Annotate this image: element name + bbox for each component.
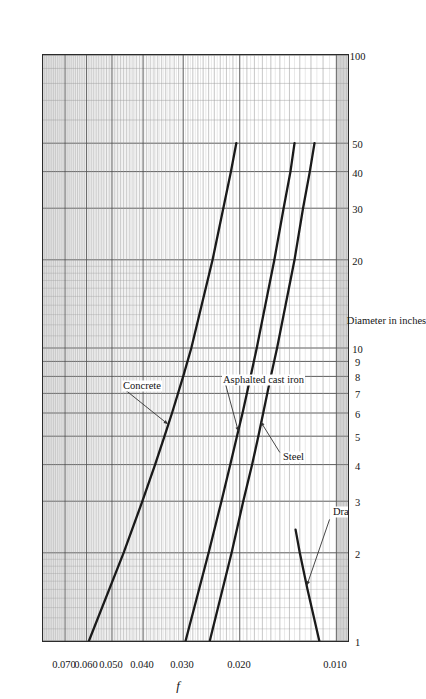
- x-tick-20: 20: [352, 255, 363, 266]
- concrete-label: Concrete: [122, 381, 162, 392]
- concrete-leader: [125, 390, 168, 424]
- x-tick-40: 40: [352, 167, 363, 178]
- x-tick-6: 6: [355, 409, 360, 420]
- x-tick-10: 10: [352, 344, 363, 355]
- x-tick-3: 3: [355, 497, 360, 508]
- x-tick-30: 30: [352, 204, 363, 215]
- y-tick-0.070: 0.070: [52, 659, 76, 670]
- drawn-tubing-leader-arrowhead: [307, 581, 310, 585]
- asphalted-cast-iron-leader: [225, 383, 238, 431]
- x-tick-2: 2: [355, 548, 360, 559]
- y-tick-0.060: 0.060: [74, 659, 98, 670]
- x-tick-5: 5: [355, 432, 360, 443]
- x-tick-9: 9: [355, 357, 360, 368]
- x-axis-title: Diameter in inches: [347, 315, 426, 326]
- y-tick-0.050: 0.050: [99, 659, 123, 670]
- annotation-leaders: [43, 55, 348, 641]
- x-tick-50: 50: [352, 139, 363, 150]
- steel-leader: [261, 422, 280, 453]
- drawn-tubing-leader: [307, 519, 330, 585]
- plot-area: Concrete Asphalted cast iron Steel Drawn…: [42, 54, 349, 642]
- drawn-tubing-label: Drawn tubing: [332, 507, 349, 518]
- steel-label: Steel: [282, 451, 305, 462]
- x-tick-7: 7: [355, 389, 360, 400]
- x-tick-8: 8: [355, 372, 360, 383]
- y-axis-title: f: [176, 678, 180, 694]
- y-tick-0.030: 0.030: [170, 659, 194, 670]
- asphalted-cast-iron-label: Asphalted cast iron: [222, 374, 305, 385]
- x-tick-4: 4: [355, 460, 360, 471]
- y-tick-0.020: 0.020: [227, 659, 251, 670]
- x-tick-100: 100: [350, 51, 366, 62]
- y-tick-0.010: 0.010: [324, 659, 348, 670]
- x-tick-1: 1: [355, 637, 360, 648]
- y-tick-0.040: 0.040: [130, 659, 154, 670]
